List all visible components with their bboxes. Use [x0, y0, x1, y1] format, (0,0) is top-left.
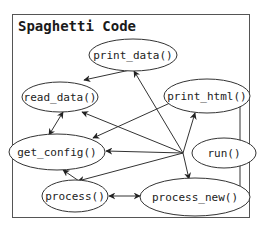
node-run: run() — [192, 138, 256, 168]
node-label: print_data() — [93, 49, 172, 62]
spaghetti-code-diagram: Spaghetti Code print_data()read_data()pr… — [0, 0, 259, 225]
node-label: run() — [207, 147, 240, 160]
diagram-title: Spaghetti Code — [18, 18, 136, 34]
node-process-new: process_new() — [140, 178, 250, 216]
node-process: process() — [42, 180, 108, 212]
node-read-data: read_data() — [22, 82, 98, 112]
node-print-data: print_data() — [89, 39, 177, 71]
node-get-config: get_config() — [9, 134, 105, 170]
node-label: process_new() — [152, 191, 238, 204]
node-print-html: print_html() — [164, 79, 250, 113]
node-label: process() — [45, 190, 105, 203]
node-label: get_config() — [17, 146, 96, 159]
node-label: print_html() — [167, 90, 246, 103]
node-label: read_data() — [24, 91, 97, 104]
